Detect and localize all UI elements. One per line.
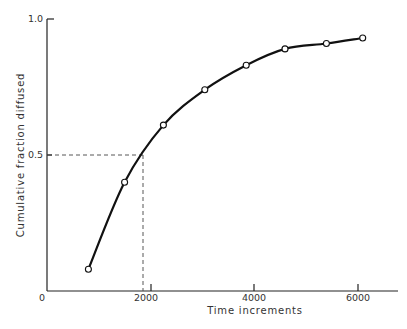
data-point-marker [360, 35, 366, 41]
data-point-marker [282, 46, 288, 52]
x-axis-label: Time increments [206, 305, 303, 316]
x-tick-label-2000: 2000 [134, 292, 158, 303]
chart: 1.0 0.5 0 2000 4000 6000 Time increments… [0, 0, 407, 329]
data-point-marker [243, 62, 249, 68]
data-curve [88, 38, 362, 269]
data-point-marker [202, 87, 208, 93]
data-point-marker [323, 41, 329, 47]
data-point-marker [160, 122, 166, 128]
x-tick-label-0: 0 [39, 292, 45, 303]
y-tick-label-0.5: 0.5 [28, 149, 43, 160]
y-tick-label-1.0: 1.0 [28, 13, 43, 24]
data-point-marker [85, 266, 91, 272]
x-tick-label-6000: 6000 [346, 292, 370, 303]
y-axis-label: Cumulative fraction diffused [15, 73, 26, 237]
data-markers [85, 35, 365, 272]
data-point-marker [122, 179, 128, 185]
x-tick-label-4000: 4000 [242, 292, 266, 303]
